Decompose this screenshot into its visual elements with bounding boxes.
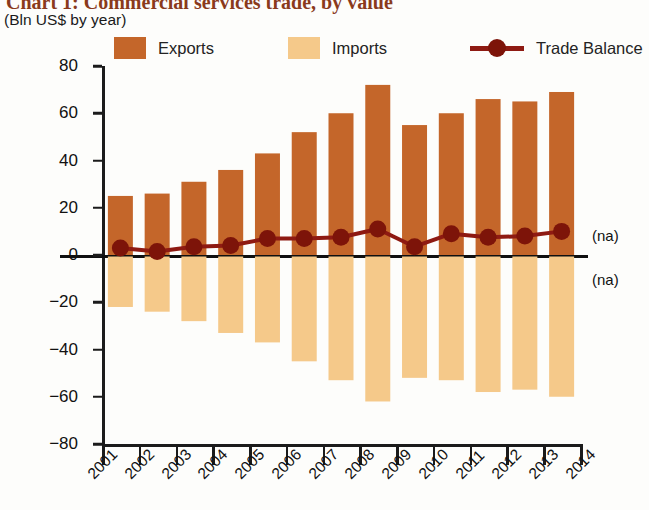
import-bar xyxy=(145,257,170,312)
trade-balance-marker xyxy=(443,225,460,242)
import-bar xyxy=(181,257,206,322)
import-bar xyxy=(512,257,537,390)
import-bar xyxy=(218,257,243,333)
trade-balance-marker xyxy=(480,229,497,246)
na-below-zero-label: (na) xyxy=(592,271,619,288)
import-bar xyxy=(255,257,280,343)
trade-balance-marker xyxy=(149,243,166,260)
trade-balance-marker xyxy=(553,223,570,240)
trade-balance-marker xyxy=(369,221,386,238)
import-bar xyxy=(292,257,317,362)
import-bar xyxy=(108,257,133,307)
na-above-zero-label: (na) xyxy=(592,227,619,244)
export-bar xyxy=(402,125,427,255)
trade-balance-marker xyxy=(516,228,533,245)
plot-area xyxy=(102,66,580,444)
trade-balance-marker xyxy=(222,237,239,254)
trade-balance-marker xyxy=(333,229,350,246)
import-bar xyxy=(329,257,354,381)
trade-balance-marker xyxy=(112,239,129,256)
trade-balance-marker xyxy=(296,230,313,247)
trade-balance-marker xyxy=(406,238,423,255)
import-bar xyxy=(549,257,574,397)
import-bar xyxy=(476,257,501,393)
trade-balance-marker xyxy=(185,238,202,255)
import-bar xyxy=(439,257,464,381)
trade-balance-marker xyxy=(259,230,276,247)
chart-figure: Chart 1: Commercial services trade, by v… xyxy=(0,0,649,510)
import-bar xyxy=(402,257,427,378)
import-bar xyxy=(365,257,390,402)
plot-graphics xyxy=(0,0,649,510)
